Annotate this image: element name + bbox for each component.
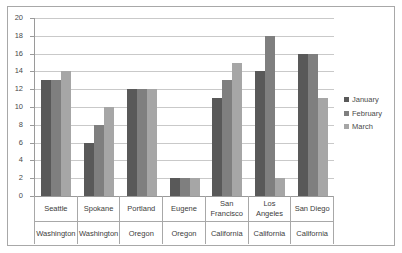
- bar-group: [120, 18, 163, 196]
- category-column: SpokaneWashington: [78, 196, 121, 244]
- legend-swatch-icon: [344, 97, 349, 102]
- bar: [137, 89, 147, 196]
- y-tick-label: 18: [15, 32, 23, 40]
- y-axis: 20 18 16 14 12 10 8 6 4 2 0: [0, 18, 26, 196]
- category-column: SeattleWashington: [35, 196, 78, 244]
- category-city-label: Spokane: [78, 196, 120, 222]
- category-column: EugeneOregon: [163, 196, 206, 244]
- bars-layer: [35, 18, 334, 196]
- bar: [180, 178, 190, 196]
- y-tick-label: 20: [15, 14, 23, 22]
- chart-container: 20 18 16 14 12 10 8 6 4 2 0: [0, 0, 402, 253]
- legend-item[interactable]: March: [344, 123, 396, 131]
- category-column: Los AngelesCalifornia: [249, 196, 292, 244]
- bar: [255, 71, 265, 196]
- bar: [308, 54, 318, 196]
- bar: [127, 89, 137, 196]
- category-city-label: Portland: [120, 196, 162, 222]
- category-state-label: Oregon: [120, 222, 162, 244]
- bar: [318, 98, 328, 196]
- category-state-label: California: [249, 222, 291, 244]
- category-city-label: San Diego: [291, 196, 333, 222]
- category-city-label: San Francisco: [206, 196, 248, 222]
- legend-label: February: [352, 110, 382, 118]
- y-tick-label: 4: [19, 157, 23, 165]
- bar-group: [163, 18, 206, 196]
- legend-label: January: [352, 96, 379, 104]
- bar: [41, 80, 51, 196]
- bar: [275, 178, 285, 196]
- category-state-label: Washington: [78, 222, 120, 244]
- category-label-table: SeattleWashingtonSpokaneWashingtonPortla…: [34, 196, 334, 244]
- bar: [104, 107, 114, 196]
- y-tick-label: 12: [15, 85, 23, 93]
- category-city-label: Eugene: [163, 196, 205, 222]
- bar-group: [206, 18, 249, 196]
- category-state-label: California: [291, 222, 333, 244]
- bar: [232, 63, 242, 197]
- legend-swatch-icon: [344, 124, 349, 129]
- category-state-label: California: [206, 222, 248, 244]
- bar: [94, 125, 104, 196]
- bar: [190, 178, 200, 196]
- bar: [222, 80, 232, 196]
- category-state-label: Washington: [35, 222, 77, 244]
- y-tick-label: 10: [15, 103, 23, 111]
- bar-group: [249, 18, 292, 196]
- chart-legend: JanuaryFebruaryMarch: [344, 96, 396, 137]
- legend-label: March: [352, 123, 373, 131]
- category-column: San DiegoCalifornia: [291, 196, 334, 244]
- bar: [170, 178, 180, 196]
- y-tick-label: 0: [19, 192, 23, 200]
- legend-item[interactable]: January: [344, 96, 396, 104]
- bar-group: [35, 18, 78, 196]
- bar: [61, 71, 71, 196]
- category-city-label: Seattle: [35, 196, 77, 222]
- bar-group: [291, 18, 334, 196]
- category-column: San FranciscoCalifornia: [206, 196, 249, 244]
- y-tick-label: 16: [15, 50, 23, 58]
- plot-area: [34, 18, 334, 196]
- bar: [51, 80, 61, 196]
- bar: [84, 143, 94, 196]
- bar: [147, 89, 157, 196]
- bar: [265, 36, 275, 196]
- y-tick-label: 8: [19, 121, 23, 129]
- legend-item[interactable]: February: [344, 110, 396, 118]
- y-tick-label: 14: [15, 68, 23, 76]
- legend-swatch-icon: [344, 111, 349, 116]
- category-column: PortlandOregon: [120, 196, 163, 244]
- bar-group: [78, 18, 121, 196]
- category-state-label: Oregon: [163, 222, 205, 244]
- category-city-label: Los Angeles: [249, 196, 291, 222]
- bar: [212, 98, 222, 196]
- y-tick-label: 2: [19, 174, 23, 182]
- bar: [298, 54, 308, 196]
- y-tick-label: 6: [19, 139, 23, 147]
